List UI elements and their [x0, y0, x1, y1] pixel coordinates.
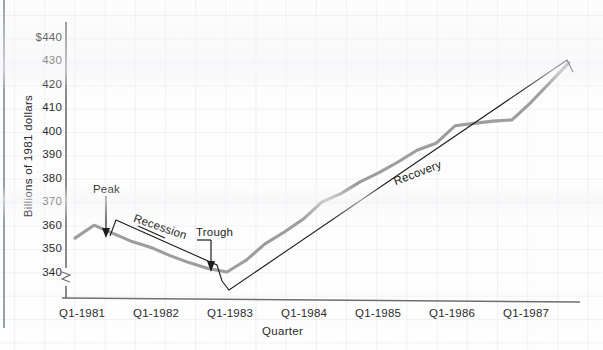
y-axis-break-icon: [62, 272, 70, 282]
annotation-recovery-bracket: [222, 60, 573, 290]
x-axis-line: [62, 298, 580, 302]
annotation-recession-bracket: [110, 220, 222, 281]
plot-area: [0, 0, 603, 350]
chart-figure: $440 430 420 410 400 390 380 370 360 350…: [0, 0, 603, 350]
series-line-real-gnp: [75, 63, 569, 272]
